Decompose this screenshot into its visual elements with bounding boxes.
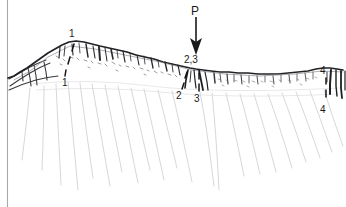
annotation-label-lower-4: 4 xyxy=(320,105,326,115)
figure-container: P 1 1 2,3 2 3 4 4 xyxy=(0,0,346,207)
annotation-label-lower-1: 1 xyxy=(62,78,68,88)
annotation-label-lower-2: 2 xyxy=(176,91,182,101)
paper-background xyxy=(0,0,346,207)
annotation-label-top-4: 4 xyxy=(320,66,326,76)
pointer-label-p: P xyxy=(191,5,199,17)
annotation-label-lower-3: 3 xyxy=(194,94,200,104)
annotation-label-top-23: 2,3 xyxy=(184,55,198,65)
annotation-label-top-1: 1 xyxy=(69,29,75,39)
escarpment-profile-drawing xyxy=(0,0,346,207)
